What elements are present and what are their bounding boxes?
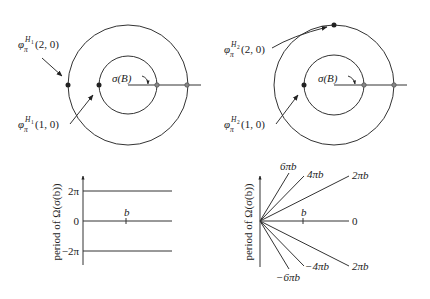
panel-top-right: σ(B) φ π H 2 (2, 0) φ π H 2 (1, 0) <box>224 23 407 146</box>
inner-intersection-point <box>155 83 159 87</box>
svg-text:π: π <box>230 50 234 59</box>
svg-text:π: π <box>24 45 28 54</box>
b-label: b <box>301 206 307 218</box>
sigma-label: σ(B) <box>318 72 338 85</box>
y-axis-label: period of Ω(σ(b)) <box>50 183 63 260</box>
svg-text:(1, 0): (1, 0) <box>241 118 265 131</box>
diagram-canvas: σ(B) φ π H 1 (2, 0) φ π H 1 (1, 0) σ(B) <box>0 0 430 299</box>
svg-text:H: H <box>230 115 237 124</box>
phi-2-0-point <box>66 83 71 88</box>
panel-top-left: σ(B) φ π H 1 (2, 0) φ π H 1 (1, 0) <box>18 25 201 145</box>
label-neg-4pib: −4πb <box>305 260 329 272</box>
label-6pib: 6πb <box>280 160 297 172</box>
panel-bottom-right: b 6πb 4πb 2πb 0 2πb −4πb −6πb period of … <box>242 160 369 283</box>
phi-1-0-point <box>302 83 307 88</box>
y-axis-label: period of Ω(σ(b)) <box>242 183 255 260</box>
svg-text:H: H <box>24 115 31 124</box>
svg-text:(2, 0): (2, 0) <box>241 43 265 56</box>
line-4pib <box>260 176 304 221</box>
phi-2-0-point <box>332 23 337 28</box>
label-neg-6pib: −6πb <box>276 271 300 283</box>
sigma-label: σ(B) <box>112 72 132 85</box>
label-phi-1-0: φ π H 1 (1, 0) <box>18 115 59 134</box>
label-4pib: 4πb <box>307 168 324 180</box>
sigma-arrow-icon <box>348 76 355 84</box>
tick-0: 0 <box>74 215 80 227</box>
svg-text:π: π <box>230 125 234 134</box>
svg-text:1: 1 <box>31 39 34 45</box>
phi-1-0-point <box>97 83 102 88</box>
label-2pib: 2πb <box>352 169 369 181</box>
svg-text:(1, 0): (1, 0) <box>35 118 59 131</box>
svg-text:H: H <box>230 40 237 49</box>
label-phi-1-0: φ π H 2 (1, 0) <box>224 115 265 134</box>
label-0: 0 <box>352 215 358 227</box>
label-phi-2-0: φ π H 2 (2, 0) <box>224 40 265 59</box>
svg-text:(2, 0): (2, 0) <box>35 38 59 51</box>
svg-text:2: 2 <box>237 119 240 125</box>
label-phi-2-0: φ π H 1 (2, 0) <box>18 35 59 54</box>
svg-text:π: π <box>24 125 28 134</box>
svg-text:2: 2 <box>237 44 240 50</box>
svg-text:H: H <box>24 35 31 44</box>
outer-intersection-point <box>185 83 189 87</box>
svg-text:1: 1 <box>31 119 34 125</box>
tick-2pi: 2π <box>68 185 80 197</box>
outer-intersection-point <box>392 83 396 87</box>
sigma-arrow-icon <box>142 76 148 84</box>
line-neg-4pib <box>260 221 304 266</box>
tick-neg-2pi: −2π <box>62 245 80 257</box>
arrow-phi-2-0-icon <box>42 58 62 76</box>
inner-intersection-point <box>362 83 366 87</box>
arrow-phi-2-0-icon <box>272 27 327 48</box>
panel-bottom-left: b 2π 0 −2π period of Ω(σ(b)) <box>50 176 172 265</box>
b-label: b <box>124 206 130 218</box>
label-neg-2pib: 2πb <box>352 260 369 272</box>
